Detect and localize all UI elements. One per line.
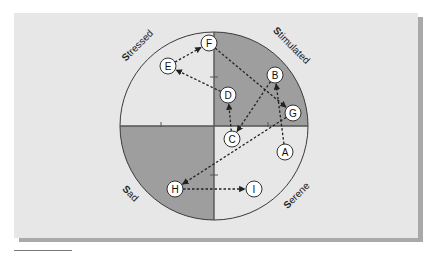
- node-b: B: [267, 67, 283, 83]
- node-a: A: [277, 144, 293, 160]
- quadrant-sad: [120, 126, 214, 220]
- node-label: G: [289, 108, 297, 119]
- node-d: D: [220, 87, 236, 103]
- node-label: A: [282, 147, 289, 158]
- node-label: B: [272, 70, 279, 81]
- node-e: E: [160, 58, 176, 74]
- node-label: D: [224, 90, 231, 101]
- node-label: H: [171, 184, 178, 195]
- node-label: C: [228, 134, 235, 145]
- mood-circle-diagram: StressedStimulatedSadSerene ABCDEFGHI: [0, 0, 433, 253]
- node-label: I: [253, 184, 256, 195]
- quadrant-label-sad: Sad: [121, 183, 141, 203]
- node-label: F: [206, 38, 212, 49]
- node-i: I: [246, 181, 262, 197]
- node-g: G: [285, 105, 301, 121]
- node-f: F: [201, 35, 217, 51]
- node-label: E: [165, 61, 172, 72]
- node-c: C: [224, 131, 240, 147]
- node-h: H: [167, 181, 183, 197]
